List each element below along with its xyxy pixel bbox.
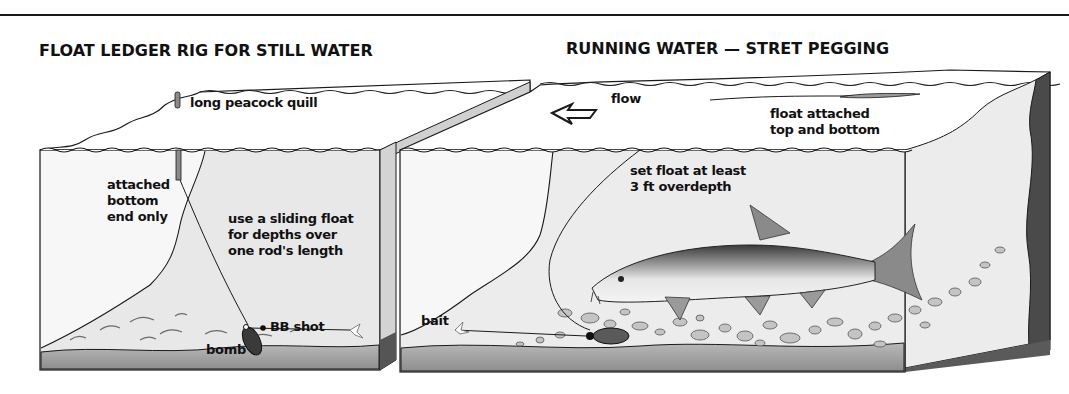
label-attached-line3: end only: [107, 210, 168, 225]
label-bait: bait: [421, 314, 449, 329]
shot-icon: [586, 332, 594, 340]
label-float-attached-line1: float attached: [770, 107, 869, 122]
label-float-attached-line2: top and bottom: [770, 123, 880, 138]
label-attached-line1: attached: [107, 178, 170, 193]
label-overdepth-line1: set float at least: [630, 164, 746, 179]
running-water-title: RUNNING WATER — STRET PEGGING: [566, 40, 889, 58]
label-bomb: bomb: [206, 343, 246, 358]
label-long-peacock-quill: long peacock quill: [190, 96, 317, 111]
weight-icon: [593, 328, 629, 344]
label-flow: flow: [611, 92, 641, 107]
label-bb-shot: BB shot: [270, 320, 324, 335]
bb-shot-icon: [260, 325, 266, 331]
label-attached-line2: bottom: [107, 194, 158, 209]
peacock-quill-icon: [175, 92, 180, 108]
float-icon: [176, 150, 181, 180]
label-sliding-float-line3: one rod's length: [228, 244, 343, 259]
label-sliding-float-line1: use a sliding float: [228, 212, 353, 227]
running-water-box: [400, 70, 1060, 372]
river-bank: [1027, 72, 1050, 356]
still-water-title: FLOAT LEDGER RIG FOR STILL WATER: [39, 42, 373, 60]
label-sliding-float-line2: for depths over: [228, 228, 337, 243]
label-overdepth-line2: 3 ft overdepth: [630, 180, 731, 195]
